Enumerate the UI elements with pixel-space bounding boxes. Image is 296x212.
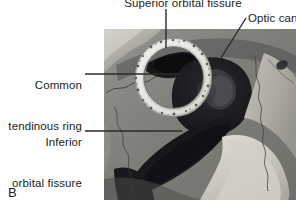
orbit-photograph-graphic: [104, 29, 296, 200]
label-superior-orbital-fissure: Superior orbital fissure: [98, 0, 268, 11]
label-optic-canal: Optic cana: [248, 12, 296, 26]
orbit-photograph: [104, 29, 296, 200]
label-common-tendinous-ring-line1: Common: [2, 79, 82, 93]
panel-letter: B: [8, 186, 17, 200]
label-inferior-orbital-fissure-line1: Inferior: [2, 136, 82, 150]
figure-panel-b: Superior orbital fissure Optic cana Comm…: [0, 0, 296, 212]
